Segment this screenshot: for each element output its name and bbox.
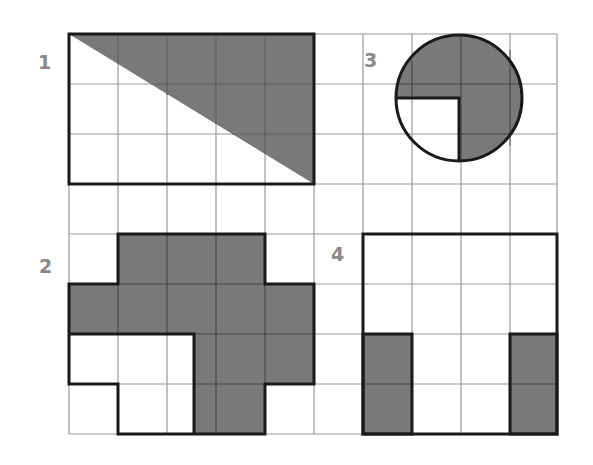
shape-2 (69, 234, 314, 434)
shape-1 (69, 34, 314, 184)
label-shape-4: 4 (331, 245, 344, 264)
grid-figure: 1 2 3 4 (0, 0, 593, 465)
shape-3 (396, 35, 522, 161)
label-shape-3: 3 (364, 51, 377, 70)
label-shape-2: 2 (39, 257, 52, 276)
label-shape-1: 1 (38, 53, 51, 72)
shape-1-shaded-triangle (69, 34, 314, 184)
